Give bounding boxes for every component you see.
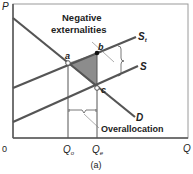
total-supply-label: St [138,31,148,43]
externality-diagram: P 0 Q Qo Qe (a) a b c D S St Negative ex… [0,0,193,174]
overallocation-label: Overallocation [101,124,164,134]
qo-label: Qo [63,144,75,156]
point-a [66,61,71,66]
qe-label: Qe [92,144,104,156]
negative-externalities-line2: externalities [51,24,106,35]
supply-curve [13,66,138,122]
supply-label: S [140,61,147,72]
q-axis-label: Q [183,143,191,154]
demand-label: D [136,112,143,123]
p-axis-label: P [2,1,9,12]
caption: (a) [91,160,102,170]
negative-externalities-line1: Negative [62,12,102,23]
origin-label: 0 [2,144,7,154]
label-a: a [65,51,70,61]
label-c: c [101,85,106,95]
label-b: b [98,42,104,52]
point-c [95,86,100,91]
overallocation-bracket [69,109,96,113]
total-supply-curve [13,37,136,88]
